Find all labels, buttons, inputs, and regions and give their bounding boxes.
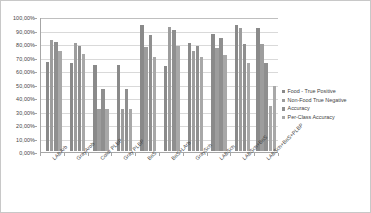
plot-area: [40, 18, 278, 153]
bar-group: [113, 18, 137, 151]
bar: [168, 27, 171, 151]
y-axis-tickmark: [34, 32, 37, 33]
legend-item[interactable]: Accuracy: [282, 106, 370, 111]
y-axis-tick-label: 90,00%: [16, 29, 35, 35]
x-axis-tickmark: [278, 153, 279, 156]
bar: [144, 47, 147, 151]
bar-group: [89, 18, 113, 151]
bar-group: [66, 18, 90, 151]
bar: [93, 65, 96, 151]
y-axis-tickmark: [34, 126, 37, 127]
x-axis-tickmark: [40, 153, 41, 156]
legend-item[interactable]: Non-Food True Negative: [282, 98, 370, 103]
x-axis: LABArbGrayArobColor PLBPGray PLBPBoSBoS+…: [40, 153, 278, 211]
y-axis-tickmark: [34, 99, 37, 100]
bar: [101, 89, 104, 151]
legend-swatch-icon: [282, 99, 285, 102]
bar: [121, 109, 124, 151]
bar: [140, 25, 143, 151]
bar: [196, 46, 199, 151]
x-axis-tickmark: [88, 153, 89, 156]
bar: [219, 38, 222, 151]
legend-swatch-icon: [282, 107, 285, 110]
bar-group: [254, 18, 278, 151]
legend-swatch-icon: [282, 116, 285, 119]
legend-swatch-icon: [282, 90, 285, 93]
legend-item[interactable]: Per-Class Accuracy: [282, 115, 370, 120]
bar: [235, 25, 238, 151]
y-axis-tickmark: [34, 113, 37, 114]
y-axis-tickmark: [34, 45, 37, 46]
x-axis-tickmark: [135, 153, 136, 156]
y-axis-tick-label: 0,00%: [19, 150, 35, 156]
y-axis-tickmark: [34, 140, 37, 141]
bar: [188, 43, 191, 151]
bar: [54, 42, 57, 151]
bar-group: [42, 18, 66, 151]
bar: [164, 66, 167, 151]
bar: [74, 43, 77, 151]
bar: [211, 34, 214, 151]
chart-legend: Food - True PositiveNon-Food True Negati…: [282, 89, 370, 123]
y-axis-tick-label: 80,00%: [16, 42, 35, 48]
legend-label: Accuracy: [288, 106, 310, 111]
bar: [239, 28, 242, 151]
x-axis-tickmark: [254, 153, 255, 156]
y-axis-tick-label: 100,00%: [13, 15, 35, 21]
bar: [256, 28, 259, 151]
y-axis-tick-label: 20,00%: [16, 123, 35, 129]
bar-group: [231, 18, 255, 151]
legend-label: Per-Class Accuracy: [288, 115, 335, 120]
x-axis-tickmark: [230, 153, 231, 156]
bars-layer: [42, 18, 278, 151]
bar-group: [184, 18, 208, 151]
bar: [153, 57, 156, 152]
x-axis-tickmark: [64, 153, 65, 156]
legend-label: Non-Food True Negative: [288, 98, 347, 103]
legend-item[interactable]: Food - True Positive: [282, 89, 370, 94]
y-axis-tick-label: 30,00%: [16, 110, 35, 116]
y-axis-tick-label: 10,00%: [16, 137, 35, 143]
y-axis-tickmark: [34, 72, 37, 73]
y-axis-tickmark: [34, 86, 37, 87]
bar-group: [207, 18, 231, 151]
bar: [247, 63, 250, 151]
y-axis-tick-label: 50,00%: [16, 83, 35, 89]
bar: [70, 63, 73, 151]
bar: [105, 109, 108, 151]
bar: [149, 35, 152, 151]
bar: [50, 40, 53, 151]
y-axis: 100,00%90,00%80,00%70,00%60,00%50,00%40,…: [1, 18, 38, 153]
bar: [200, 57, 203, 152]
x-axis-tickmark: [207, 153, 208, 156]
x-axis-tickmark: [183, 153, 184, 156]
bar: [129, 109, 132, 151]
y-axis-tick-label: 40,00%: [16, 96, 35, 102]
bar: [125, 89, 128, 151]
bar-chart: 100,00%90,00%80,00%70,00%60,00%50,00%40,…: [0, 0, 371, 213]
bar: [215, 48, 218, 151]
bar-group: [136, 18, 160, 151]
y-axis-tickmark: [34, 153, 37, 154]
y-axis-tick-label: 60,00%: [16, 69, 35, 75]
bar: [269, 106, 272, 151]
x-axis-tickmark: [159, 153, 160, 156]
bar: [97, 109, 100, 151]
bar: [243, 44, 246, 151]
bar: [46, 62, 49, 151]
bar: [78, 46, 81, 151]
bar-group: [160, 18, 184, 151]
y-axis-tickmark: [34, 18, 37, 19]
bar: [82, 54, 85, 151]
bar: [172, 30, 175, 152]
bar: [192, 51, 195, 151]
bar: [273, 86, 276, 151]
bar: [223, 55, 226, 151]
bar: [176, 46, 179, 151]
bar: [58, 51, 61, 151]
plot-wrapper: [40, 18, 278, 153]
y-axis-tick-label: 70,00%: [16, 56, 35, 62]
x-axis-tickmark: [111, 153, 112, 156]
legend-label: Food - True Positive: [288, 89, 336, 94]
y-axis-tickmark: [34, 59, 37, 60]
